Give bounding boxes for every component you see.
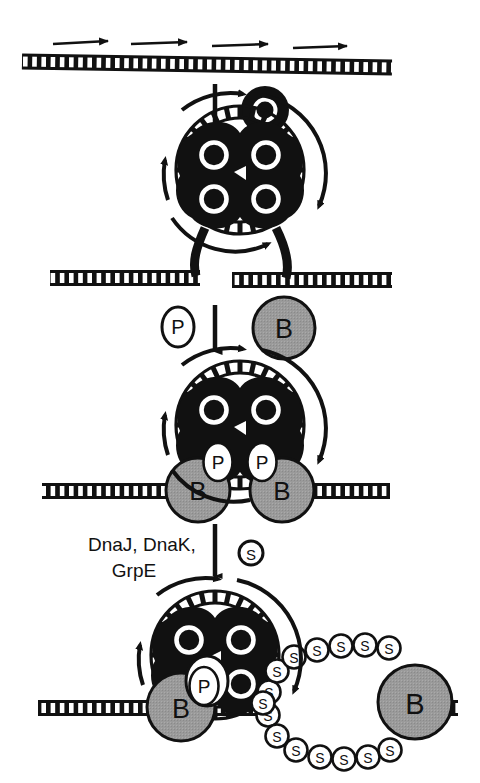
ssb-unit: S	[333, 748, 356, 771]
s-label: S	[246, 546, 256, 563]
figure-root: P B	[0, 0, 480, 783]
ssb-letter: S	[289, 650, 298, 666]
dna-rungs-right	[232, 273, 392, 287]
ssb-unit: S	[354, 634, 377, 657]
ssb-letter: S	[336, 639, 345, 655]
ssb-letter: S	[363, 750, 372, 766]
chaperone-line-1: DnaJ, DnaK,	[88, 534, 196, 555]
dna-strand-stage-4-left	[38, 700, 150, 716]
ssb-letter: S	[385, 743, 394, 759]
p-subunit-right-stage-3: P	[248, 443, 277, 481]
ssb-letter: S	[272, 729, 281, 745]
b-label: B	[172, 694, 190, 724]
b-label: B	[405, 688, 424, 720]
ssb-letter: S	[360, 638, 369, 654]
ssb-letter: S	[272, 664, 281, 680]
free-p-protein: P	[162, 307, 194, 347]
ssb-letter: S	[339, 752, 348, 768]
replication-diagram: P B	[0, 0, 480, 783]
p-protein-label: P	[171, 316, 184, 338]
ssb-unit: S	[309, 746, 332, 769]
ssb-letter: S	[315, 750, 324, 766]
ssb-unit: S	[378, 637, 401, 660]
ssb-unit: S	[306, 639, 329, 662]
ssb-letter: S	[384, 641, 393, 657]
b-subunit-right-stage-4: B	[378, 665, 452, 739]
dna-rungs	[38, 701, 150, 715]
b-label: B	[273, 476, 290, 506]
p-subunit-stage-4: P	[186, 656, 228, 706]
ssb-letter: S	[291, 743, 300, 759]
ssb-unit: S	[357, 746, 380, 769]
ssb-letter: S	[312, 643, 321, 659]
chaperone-line-2: GrpE	[112, 560, 156, 581]
p-label: P	[256, 452, 269, 473]
p-label: P	[212, 452, 225, 473]
free-s-protein: S	[239, 541, 263, 565]
p-label: P	[198, 676, 211, 697]
ssb-unit: S	[285, 739, 308, 762]
ssb-unit: S	[330, 635, 353, 658]
ssb-letter: S	[258, 696, 267, 712]
ssb-unit: S	[252, 692, 275, 715]
o-tetramer-stage-2	[176, 122, 304, 229]
dna-rungs-left	[50, 271, 200, 285]
ssb-unit: S	[379, 739, 402, 762]
b-protein-label: B	[275, 314, 293, 344]
p-subunit-left-stage-3: P	[204, 443, 233, 481]
